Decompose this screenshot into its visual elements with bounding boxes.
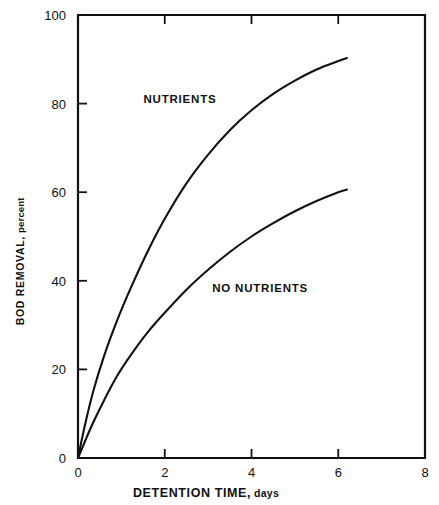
x-axis-tick-labels: 02468: [74, 465, 428, 480]
series-label-nutrients: NUTRIENTS: [143, 93, 216, 105]
x-tick-label-6: 6: [335, 465, 342, 480]
x-axis-title-main: DETENTION TIME,: [133, 486, 251, 500]
y-tick-label-40: 40: [52, 274, 66, 289]
series-annotations: NUTRIENTSNO NUTRIENTS: [143, 93, 308, 295]
x-tick-label-0: 0: [74, 465, 81, 480]
x-tick-label-4: 4: [248, 465, 255, 480]
bod-removal-vs-detention-time-chart: 02468 020406080100 NUTRIENTSNO NUTRIENTS…: [0, 0, 439, 505]
y-tick-label-0: 0: [59, 451, 66, 466]
x-axis-title-sub: days: [254, 487, 279, 499]
x-tick-label-8: 8: [421, 465, 428, 480]
x-tick-label-2: 2: [161, 465, 168, 480]
y-tick-label-80: 80: [52, 97, 66, 112]
y-tick-label-20: 20: [52, 362, 66, 377]
y-axis-title-sub: percent: [15, 197, 26, 233]
y-axis-tick-labels: 020406080100: [44, 8, 66, 466]
curve-nutrients: [78, 58, 347, 458]
data-series-curves: [78, 58, 347, 458]
y-tick-label-100: 100: [44, 8, 66, 23]
y-axis-ticks: [78, 104, 87, 370]
y-axis-title-main: BOD REMOVAL,: [14, 236, 26, 325]
series-label-no-nutrients: NO NUTRIENTS: [212, 282, 308, 294]
y-tick-label-60: 60: [52, 185, 66, 200]
chart-figure: 02468 020406080100 NUTRIENTSNO NUTRIENTS…: [0, 0, 439, 505]
curve-no-nutrients: [78, 190, 347, 458]
